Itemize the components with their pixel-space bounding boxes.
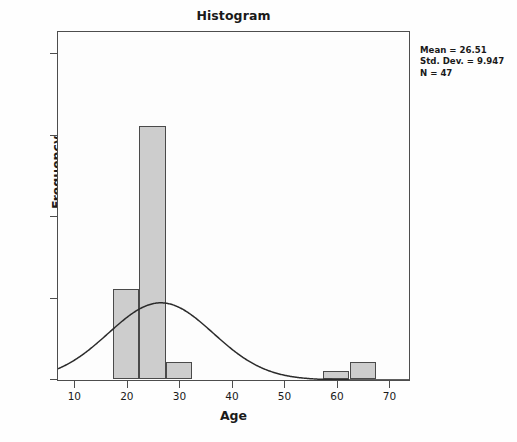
y-tick-mark bbox=[50, 53, 57, 54]
x-tick-label: 70 bbox=[369, 390, 409, 402]
histogram-bar bbox=[166, 362, 192, 378]
plot-area bbox=[57, 31, 410, 381]
histogram-bar bbox=[323, 371, 349, 379]
x-tick-label: 40 bbox=[212, 390, 252, 402]
histogram-bar bbox=[350, 362, 376, 378]
stat-n: N = 47 bbox=[420, 68, 504, 79]
x-tick-label: 60 bbox=[317, 390, 357, 402]
histogram-bar bbox=[113, 289, 139, 379]
statistics-annotation: Mean = 26.51 Std. Dev. = 9.947 N = 47 bbox=[420, 45, 504, 79]
stat-mean: Mean = 26.51 bbox=[420, 45, 504, 56]
chart-title: Histogram bbox=[57, 8, 410, 23]
x-tick-mark bbox=[232, 381, 233, 388]
stat-std-dev: Std. Dev. = 9.947 bbox=[420, 56, 504, 67]
x-tick-mark bbox=[179, 381, 180, 388]
x-tick-mark bbox=[389, 381, 390, 388]
x-tick-label: 50 bbox=[264, 390, 304, 402]
histogram-figure: Histogram Frequency Age 010203040 102030… bbox=[0, 0, 517, 442]
y-tick-mark bbox=[50, 379, 57, 380]
normal-distribution-curve bbox=[58, 32, 409, 380]
y-tick-mark bbox=[50, 298, 57, 299]
histogram-bar bbox=[139, 126, 165, 379]
x-tick-mark bbox=[284, 381, 285, 388]
y-tick-mark bbox=[50, 216, 57, 217]
x-tick-label: 20 bbox=[107, 390, 147, 402]
x-tick-mark bbox=[127, 381, 128, 388]
y-tick-mark bbox=[50, 135, 57, 136]
x-tick-label: 30 bbox=[159, 390, 199, 402]
x-tick-mark bbox=[337, 381, 338, 388]
x-axis-label: Age bbox=[57, 408, 410, 423]
x-tick-label: 10 bbox=[54, 390, 94, 402]
x-tick-mark bbox=[74, 381, 75, 388]
plot-inner bbox=[58, 32, 409, 380]
